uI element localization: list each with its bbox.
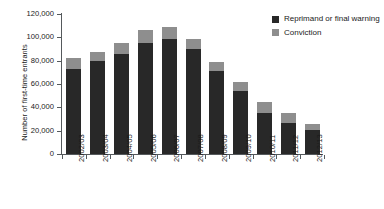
x-axis-tick-label: 2006/07 bbox=[172, 134, 181, 162]
bar-segment-conviction[interactable] bbox=[257, 102, 272, 113]
x-axis-tick bbox=[300, 155, 301, 159]
bar-segment-conviction[interactable] bbox=[162, 27, 177, 39]
bar-chart: Number of first-time entrants 020,00040,… bbox=[0, 0, 384, 209]
bar-segment-conviction[interactable] bbox=[233, 82, 248, 91]
x-axis-tick bbox=[205, 155, 206, 159]
x-axis-tick-label: 2005/06 bbox=[149, 134, 158, 162]
x-axis-tick-label: 2010/11 bbox=[268, 135, 277, 162]
x-axis-tick-label: 2004/05 bbox=[125, 134, 134, 162]
x-axis-tick bbox=[62, 155, 63, 159]
bar-segment-conviction[interactable] bbox=[186, 39, 201, 50]
y-axis-tick-label: 60,000 bbox=[8, 79, 54, 88]
legend-swatch-icon bbox=[272, 29, 279, 36]
legend-label: Reprimand or final warning bbox=[284, 14, 380, 25]
x-axis-tick-label: 2012/13 bbox=[315, 134, 324, 162]
y-axis-tick-label: 80,000 bbox=[8, 56, 54, 65]
legend-swatch-icon bbox=[272, 16, 279, 23]
x-axis-tick-label: 2002/03 bbox=[77, 134, 86, 162]
y-axis-tick-label: 100,000 bbox=[8, 32, 54, 41]
bar-segment-conviction[interactable] bbox=[281, 113, 296, 122]
y-axis-tick-label: 20,000 bbox=[8, 126, 54, 135]
legend-item-reprimand: Reprimand or final warning bbox=[272, 14, 384, 25]
x-axis-tick bbox=[324, 155, 325, 159]
bar-segment-conviction[interactable] bbox=[66, 58, 81, 70]
x-axis-tick-label: 2009/10 bbox=[244, 134, 253, 162]
y-axis-tick-label: 120,000 bbox=[8, 9, 54, 18]
x-axis-tick-label: 2011/12 bbox=[291, 135, 300, 162]
x-axis-tick-label: 2008/09 bbox=[220, 134, 229, 162]
bar-segment-conviction[interactable] bbox=[138, 30, 153, 43]
x-axis-tick bbox=[181, 155, 182, 159]
bar-segment-conviction[interactable] bbox=[209, 62, 224, 70]
y-axis-tick-label: 0 bbox=[8, 149, 54, 158]
bar-segment-conviction[interactable] bbox=[90, 52, 105, 61]
chart-legend: Reprimand or final warning Conviction bbox=[272, 14, 384, 41]
y-axis-tick-label: 40,000 bbox=[8, 102, 54, 111]
bar-segment-conviction[interactable] bbox=[114, 43, 129, 54]
legend-label: Conviction bbox=[284, 28, 321, 39]
x-axis-tick-label: 2003/04 bbox=[101, 134, 110, 162]
legend-item-conviction: Conviction bbox=[272, 28, 384, 39]
x-axis-tick-label: 2007/08 bbox=[196, 134, 205, 162]
